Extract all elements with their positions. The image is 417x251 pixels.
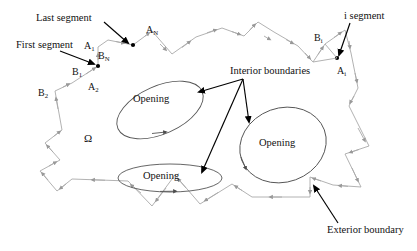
- label-vertex-b2-sub: 2: [45, 92, 48, 99]
- opening-upper-left: [108, 69, 212, 150]
- boundary-element-diagram: Last segment First segment i segment Int…: [0, 0, 417, 251]
- label-vertex-a2-sub: 2: [95, 86, 98, 93]
- leader-first-segment: [60, 51, 94, 64]
- leader-exterior-boundary: [314, 186, 338, 223]
- label-vertex-b1-sub: 1: [79, 71, 82, 78]
- label-i-segment: i segment: [344, 11, 385, 22]
- label-first-segment: First segment: [16, 40, 73, 51]
- label-vertex-bi-sub: i: [321, 37, 323, 44]
- label-vertex-bn-sub: N: [105, 55, 110, 62]
- node-an: [131, 43, 135, 47]
- leader-interior-1: [199, 79, 243, 92]
- label-vertex-an-sub: N: [153, 29, 158, 36]
- label-vertex-bn-base: B: [98, 50, 105, 61]
- opening-upper-left-outline: [108, 69, 212, 150]
- i-segment-kink: [313, 44, 337, 62]
- label-vertex-b1-base: B: [72, 66, 79, 77]
- label-vertex-b1: B1: [72, 67, 82, 77]
- label-opening-upper-left: Opening: [133, 94, 169, 105]
- label-exterior-boundary: Exterior boundary: [327, 225, 404, 236]
- label-vertex-b2-base: B: [38, 87, 45, 98]
- leader-i-segment: [339, 23, 350, 55]
- label-vertex-a2: A2: [88, 82, 99, 92]
- diagram-canvas: [0, 0, 417, 251]
- opening-right-direction-arrow: [241, 157, 246, 169]
- label-vertex-b2: B2: [38, 88, 48, 98]
- label-domain-omega: Ω: [84, 133, 92, 144]
- label-vertex-a1-sub: 1: [91, 45, 94, 52]
- label-vertex-a1: A1: [84, 41, 95, 51]
- label-interior-boundaries: Interior boundaries: [230, 66, 310, 77]
- leader-interior-2: [243, 79, 249, 122]
- label-vertex-bi-base: B: [314, 32, 321, 43]
- label-vertex-bi: Bi: [314, 33, 323, 43]
- node-a1-bn: [96, 64, 100, 68]
- opening-upper-left-direction-arrow: [152, 132, 166, 134]
- label-last-segment: Last segment: [36, 13, 92, 24]
- label-vertex-an: AN: [146, 25, 158, 35]
- leader-interior-3: [202, 79, 243, 172]
- label-vertex-ai: Ai: [337, 66, 346, 76]
- label-vertex-bn: BN: [98, 51, 110, 61]
- label-vertex-ai-sub: i: [344, 70, 346, 77]
- label-opening-right: Opening: [259, 138, 295, 149]
- label-opening-lower-left: Opening: [143, 171, 179, 182]
